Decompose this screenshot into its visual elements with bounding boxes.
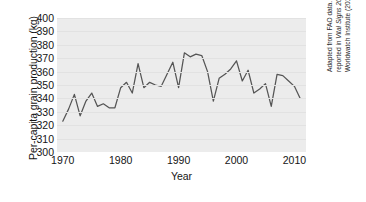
y-tick-label: 320	[24, 120, 54, 130]
y-tick-label: 380	[24, 40, 54, 50]
y-tick-label: 370	[24, 53, 54, 63]
gridline	[57, 139, 306, 140]
source-credit: Adapted from FAO data. Data through 2009…	[318, 2, 364, 170]
x-tick-label: 1990	[159, 154, 199, 166]
gridline	[57, 125, 306, 126]
credit-line-3: Worldwatch Institute (2010).	[344, 0, 352, 72]
y-tick-label: 390	[24, 26, 54, 36]
x-tick-label: 2010	[274, 154, 314, 166]
credit-line-2-italic: Vital Signs 2010	[335, 0, 342, 39]
y-tick-label: 360	[24, 67, 54, 77]
y-axis-tick-labels: 400390380370360350340330320310300	[24, 0, 54, 202]
gridline	[57, 72, 306, 73]
gridline	[57, 112, 306, 113]
gridline	[57, 18, 306, 19]
y-tick-label: 400	[24, 13, 54, 23]
gridline	[57, 58, 306, 59]
y-tick-label: 330	[24, 107, 54, 117]
x-axis-title: Year	[57, 170, 306, 182]
gridline	[57, 98, 306, 99]
credit-line-2: reported in Vital Signs 2010. Washington…	[335, 0, 343, 72]
x-axis-tick-labels: 19701980199020002010	[0, 154, 366, 168]
y-tick-label: 310	[24, 134, 54, 144]
x-tick-label: 2000	[217, 154, 257, 166]
credit-line-2-prefix: reported in	[335, 39, 342, 72]
y-tick-label: 340	[24, 93, 54, 103]
gridline	[57, 31, 306, 32]
y-tick-label: 350	[24, 80, 54, 90]
x-tick-label: 1980	[101, 154, 141, 166]
x-tick-label: 1970	[43, 154, 83, 166]
plot-area	[57, 18, 306, 152]
gridline	[57, 85, 306, 86]
credit-line-1: Adapted from FAO data. Data through 2009	[326, 0, 334, 72]
chart-figure: Per-capita grain production (kg) 4003903…	[0, 0, 366, 202]
gridline	[57, 45, 306, 46]
